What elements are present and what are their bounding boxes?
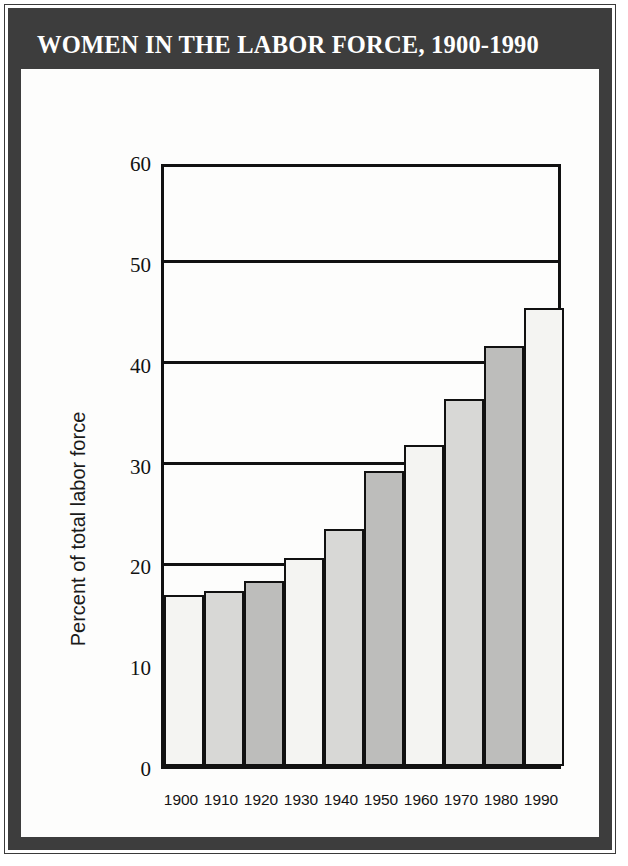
y-axis-tick-label: 30 [105,454,151,479]
x-axis-tick-label: 1980 [484,791,518,809]
bar [204,591,244,766]
y-axis-tick-label: 20 [105,555,151,580]
page-title: WOMEN IN THE LABOR FORCE, 1900-1990 [37,31,539,59]
bar [404,445,444,766]
bar [244,581,284,766]
bar [164,595,204,766]
y-axis-tick-label: 40 [105,353,151,378]
x-axis-tick-label: 1900 [164,791,198,809]
bar [524,308,564,766]
x-axis-tick-label: 1950 [364,791,398,809]
poster-frame: WOMEN IN THE LABOR FORCE, 1900-1990 Perc… [4,4,616,854]
bar [444,399,484,766]
x-axis-tick-label: 1910 [204,791,238,809]
bar [484,346,524,766]
plot-area [161,164,561,769]
y-axis-tick-label: 60 [105,152,151,177]
y-axis-tick-label: 0 [105,757,151,782]
title-banner: WOMEN IN THE LABOR FORCE, 1900-1990 [21,21,599,69]
x-axis-tick-label: 1920 [244,791,278,809]
y-axis-tick-label: 10 [105,656,151,681]
bar [364,471,404,766]
bar-series [164,167,558,766]
x-axis-tick-label: 1940 [324,791,358,809]
x-axis-tick-label: 1960 [404,791,438,809]
bar-chart: Percent of total labor force 01020304050… [21,69,599,837]
x-axis-tick-label: 1990 [524,791,558,809]
bar [284,558,324,766]
y-axis-title: Percent of total labor force [67,369,90,689]
poster-frame-inner: WOMEN IN THE LABOR FORCE, 1900-1990 Perc… [8,8,612,850]
y-axis-tick-label: 50 [105,252,151,277]
bar [324,529,364,766]
x-axis-tick-label: 1930 [284,791,318,809]
x-axis-tick-label: 1970 [444,791,478,809]
